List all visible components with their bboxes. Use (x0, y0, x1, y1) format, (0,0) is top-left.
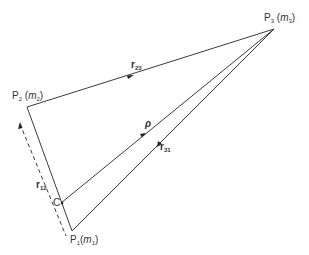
p1-sub: 1 (77, 240, 80, 246)
edge-p2-p3 (27, 29, 274, 107)
p2-mass-sub: 2 (36, 96, 39, 102)
label-r12: r12 (36, 180, 47, 191)
label-p1: P1(m1) (70, 235, 98, 246)
p1-name: P (70, 234, 77, 245)
rho-arrowhead-icon (140, 133, 146, 138)
diagram-canvas (0, 0, 309, 255)
label-c: C (53, 198, 60, 208)
rho-name: ρ (145, 118, 151, 129)
rho-line (61, 29, 274, 203)
p3-sub: 3 (271, 18, 274, 24)
r23-sub: 23 (135, 65, 142, 71)
p3-mass-sub: 3 (288, 18, 291, 24)
edge-p2-p1 (27, 107, 72, 231)
three-body-diagram: P2 (m2) P3 (m3) P1(m1) C r23 r31 r12 ρ (0, 0, 309, 255)
center-point-marker (61, 202, 64, 205)
p2-sub: 2 (19, 96, 22, 102)
r12-arrowhead-icon (18, 122, 23, 129)
label-p3: P3 (m3) (264, 13, 295, 24)
p1-mass-sub: 1 (92, 240, 95, 246)
p3-name: P (264, 12, 271, 23)
label-r31: r31 (160, 142, 171, 153)
label-p2: P2 (m2) (12, 91, 43, 102)
r23-arrowhead-icon (127, 75, 134, 79)
c-name: C (53, 197, 60, 208)
label-r23: r23 (131, 60, 142, 71)
p2-name: P (12, 90, 19, 101)
r12-sub: 12 (40, 185, 47, 191)
label-rho: ρ (145, 119, 151, 129)
p1-mass: m (83, 234, 91, 245)
r31-sub: 31 (164, 147, 171, 153)
edge-p3-p1 (72, 29, 274, 231)
